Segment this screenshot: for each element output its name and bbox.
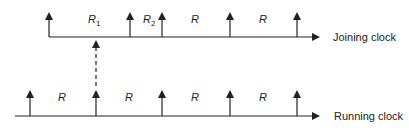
interval-label: R1 xyxy=(88,13,101,28)
interval-label: R xyxy=(58,91,66,103)
joining-clock-timeline: R1R2RR Joining clock xyxy=(49,13,396,43)
interval-label: R xyxy=(259,13,267,25)
interval-label: R xyxy=(125,91,133,103)
clock-sync-diagram: R1R2RR Joining clock RRRR Running clock xyxy=(0,0,409,133)
joining-clock-interval-labels: R1R2RR xyxy=(88,13,267,28)
running-clock-ticks xyxy=(30,94,297,116)
interval-label: R xyxy=(259,91,267,103)
joining-clock-label: Joining clock xyxy=(333,31,396,43)
interval-label: R xyxy=(191,13,199,25)
interval-label: R xyxy=(191,91,199,103)
running-clock-label: Running clock xyxy=(334,110,404,122)
interval-label: R2 xyxy=(143,13,156,28)
running-clock-timeline: RRRR Running clock xyxy=(15,91,404,122)
